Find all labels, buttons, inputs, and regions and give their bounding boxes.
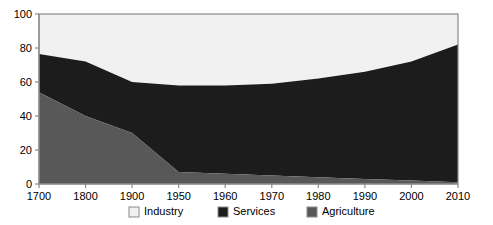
y-tick-label: 40: [20, 110, 32, 122]
y-tick-label: 20: [20, 144, 32, 156]
chart-container: 020406080100 170018001900195019601970198…: [0, 0, 493, 225]
y-tick-label: 80: [20, 42, 32, 54]
y-axis-ticks: 020406080100: [14, 8, 39, 190]
x-tick-label: 2010: [446, 190, 470, 202]
x-tick-label: 1960: [213, 190, 237, 202]
y-tick-label: 100: [14, 8, 32, 20]
legend-swatch-agriculture[interactable]: [307, 207, 317, 217]
legend-label-industry[interactable]: Industry: [144, 205, 184, 217]
legend-swatch-industry[interactable]: [129, 207, 139, 217]
x-axis-ticks: 1700180019001950196019701980199020002010: [27, 184, 470, 202]
legend-label-services[interactable]: Services: [233, 205, 276, 217]
chart-legend: IndustryServicesAgriculture: [129, 205, 375, 217]
series-group: [39, 14, 458, 184]
y-tick-label: 60: [20, 76, 32, 88]
y-tick-label: 0: [26, 178, 32, 190]
stacked-area-chart: 020406080100 170018001900195019601970198…: [0, 0, 493, 225]
x-tick-label: 1970: [260, 190, 284, 202]
x-tick-label: 1700: [27, 190, 51, 202]
legend-swatch-services[interactable]: [218, 207, 228, 217]
x-tick-label: 1800: [73, 190, 97, 202]
x-tick-label: 1980: [306, 190, 330, 202]
x-tick-label: 1950: [166, 190, 190, 202]
legend-label-agriculture[interactable]: Agriculture: [322, 205, 375, 217]
x-tick-label: 1900: [120, 190, 144, 202]
x-tick-label: 2000: [399, 190, 423, 202]
x-tick-label: 1990: [353, 190, 377, 202]
